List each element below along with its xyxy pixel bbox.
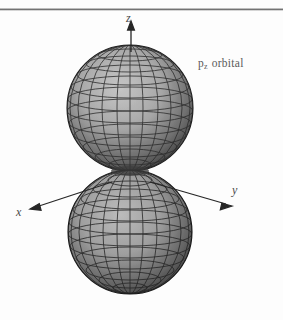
orbital-node [111, 166, 149, 176]
axis-label-z: z [126, 11, 131, 26]
axis-label-x: x [16, 205, 21, 220]
caption-word: orbital [212, 57, 244, 69]
orbital-diagram [0, 0, 283, 320]
orbital-caption: pzorbital [198, 57, 244, 71]
axis-label-y: y [232, 183, 237, 198]
caption-subscript: z [204, 62, 208, 71]
p-orbital-figure: z x y pzorbital [0, 0, 283, 320]
orbital-lobe-upper [67, 45, 193, 171]
